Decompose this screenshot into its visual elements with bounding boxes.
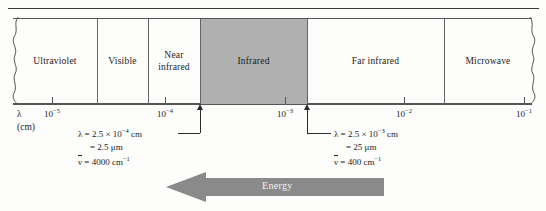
- axis-break-left-icon: [11, 16, 21, 106]
- tick-mantissa: 10: [44, 109, 53, 119]
- axis-symbol-lambda: λ: [17, 109, 22, 119]
- annotation-right-line3-exp: −1: [374, 155, 381, 162]
- band-cell-infrared: Infrared: [200, 19, 307, 105]
- annotation-right-line1: λ = 2.5 × 10−3 cm: [334, 126, 398, 141]
- band-divider-5: [444, 19, 445, 105]
- annotation-left-line1: λ = 2.5 × 10−4 cm: [78, 126, 142, 141]
- annotation-left-line3-mid: = 4000 cm: [82, 157, 123, 167]
- band-divider-4: [307, 19, 308, 105]
- axis-tick-2: [165, 97, 166, 104]
- axis-tick-3: [285, 97, 286, 104]
- annotation-right-line1-exp: −3: [378, 127, 385, 134]
- axis-tick-label-5: 10−1: [516, 107, 532, 119]
- annotation-left-line3: ν = 4000 cm−1: [78, 154, 142, 169]
- band-cell-microwave: Microwave: [444, 19, 532, 105]
- figure-electromagnetic-spectrum: Ultraviolet Visible Near infrared Infrar…: [0, 0, 546, 211]
- annotation-left-line1-pre: λ = 2.5 × 10: [78, 129, 122, 139]
- tick-exponent: −1: [525, 107, 532, 114]
- annotation-right-line3-mid: = 400 cm: [338, 157, 374, 167]
- tick-exponent: −3: [286, 107, 293, 114]
- leader-line-left-horizontal: [178, 133, 200, 134]
- axis-tick-1: [52, 97, 53, 104]
- annotation-left-line1-post: cm: [129, 129, 142, 139]
- band-label-far-infrared: Far infrared: [352, 56, 400, 68]
- leader-line-right-vertical: [307, 110, 308, 133]
- annotation-infrared-lower-limit: λ = 2.5 × 10−4 cm = 2.5 μm ν = 4000 cm−1: [78, 126, 142, 169]
- band-label-visible: Visible: [108, 56, 136, 68]
- band-label-infrared: Infrared: [237, 56, 269, 68]
- annotation-right-line2-text: = 25 μm: [346, 142, 376, 152]
- top-divider-rule: [8, 8, 539, 9]
- annotation-right-line2: = 25 μm: [334, 141, 398, 154]
- axis-tick-5: [524, 97, 525, 104]
- band-divider-1: [97, 19, 98, 105]
- annotation-left-line2: = 2.5 μm: [78, 141, 142, 154]
- annotation-left-line3-exp: −1: [123, 155, 130, 162]
- axis-name-wavelength: λ (cm): [17, 108, 35, 134]
- band-cell-ultraviolet: Ultraviolet: [13, 19, 97, 105]
- axis-tick-label-1: 10−5: [44, 107, 60, 119]
- band-label-near-infrared-line1: Near: [164, 50, 183, 60]
- band-label-near-infrared: Near infrared: [158, 50, 190, 74]
- axis-tick-label-4: 10−2: [396, 107, 412, 119]
- tick-exponent: −4: [166, 107, 173, 114]
- band-cell-visible: Visible: [97, 19, 148, 105]
- band-label-ultraviolet: Ultraviolet: [33, 56, 76, 68]
- annotation-right-line3: ν = 400 cm−1: [334, 154, 398, 169]
- band-divider-3: [200, 19, 201, 105]
- band-divider-2: [148, 19, 149, 105]
- band-label-microwave: Microwave: [465, 56, 510, 68]
- wavenumber-symbol: ν: [334, 156, 338, 169]
- tick-mantissa: 10: [396, 109, 405, 119]
- axis-break-right-icon: [527, 16, 537, 106]
- tick-mantissa: 10: [157, 109, 166, 119]
- leader-line-left-vertical: [200, 110, 201, 133]
- spectrum-band: Ultraviolet Visible Near infrared Infrar…: [13, 18, 532, 104]
- band-cell-far-infrared: Far infrared: [307, 19, 444, 105]
- axis-tick-4: [404, 97, 405, 104]
- axis-unit-cm: (cm): [17, 122, 35, 132]
- tick-exponent: −5: [53, 107, 60, 114]
- band-cell-near-infrared: Near infrared: [148, 19, 200, 105]
- annotation-left-line1-exp: −4: [122, 127, 129, 134]
- tick-exponent: −2: [405, 107, 412, 114]
- annotation-right-line1-post: cm: [385, 129, 398, 139]
- wavenumber-symbol: ν: [78, 156, 82, 169]
- annotation-right-line1-pre: λ = 2.5 × 10: [334, 129, 378, 139]
- wavelength-axis-line: [13, 104, 532, 105]
- annotation-infrared-upper-limit: λ = 2.5 × 10−3 cm = 25 μm ν = 400 cm−1: [334, 126, 398, 169]
- tick-mantissa: 10: [516, 109, 525, 119]
- axis-tick-label-3: 10−3: [277, 107, 293, 119]
- energy-arrow-label: Energy: [262, 180, 293, 191]
- tick-mantissa: 10: [277, 109, 286, 119]
- axis-tick-label-2: 10−4: [157, 107, 173, 119]
- band-label-near-infrared-line2: infrared: [158, 62, 190, 72]
- annotation-left-line2-text: = 2.5 μm: [90, 142, 123, 152]
- leader-line-right-horizontal: [307, 133, 331, 134]
